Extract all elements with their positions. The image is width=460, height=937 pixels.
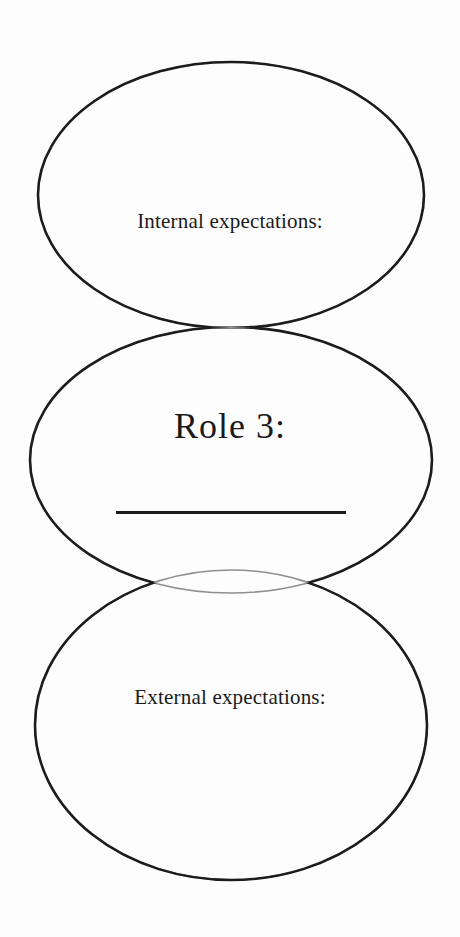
external-expectations-label: External expectations: [0,684,460,710]
role-title-label: Role 3: [0,405,460,447]
circle-top-faint [38,62,424,328]
circle-middle-faint [30,327,432,593]
venn-diagram [0,0,460,937]
circle-top-internal-expectations [38,62,424,328]
role-answer-blank[interactable] [116,511,346,514]
circle-middle-role [30,327,432,593]
circle-bottom-external-expectations [35,570,427,880]
circle-bottom-faint [35,570,427,880]
worksheet-page: Internal expectations: Role 3: External … [0,0,460,937]
internal-expectations-label: Internal expectations: [0,208,460,234]
